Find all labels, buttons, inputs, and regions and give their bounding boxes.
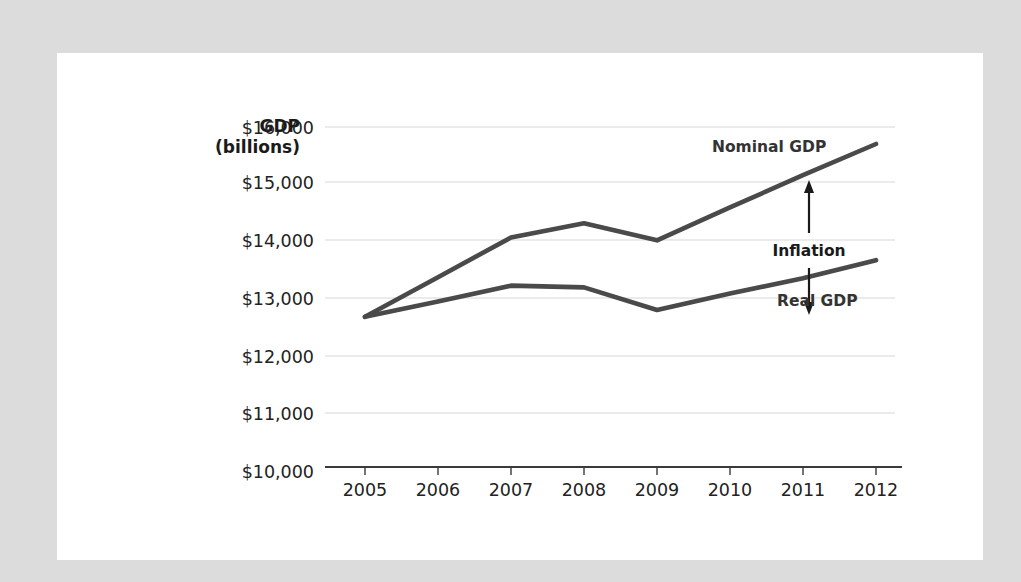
y-tick-label: $10,000 <box>242 462 314 482</box>
y-tick-label: $15,000 <box>242 173 314 193</box>
y-tick-label: $16,000 <box>242 118 314 138</box>
x-tick-label: 2006 <box>416 480 461 500</box>
y-tick-label: $14,000 <box>242 231 314 251</box>
y-tick-label: $11,000 <box>242 404 314 424</box>
x-tick-label: 2007 <box>489 480 534 500</box>
label-real-gdp: Real GDP <box>777 292 858 310</box>
x-tick-label: 2009 <box>635 480 680 500</box>
y-tick-labels: $16,000 $15,000 $14,000 $13,000 $12,000 … <box>242 118 314 482</box>
label-inflation: Inflation <box>772 242 845 260</box>
x-tick-label: 2008 <box>562 480 607 500</box>
x-tick-labels: 2005 2006 2007 2008 2009 2010 2011 2012 <box>343 480 899 500</box>
x-tick-label: 2005 <box>343 480 388 500</box>
x-tick-label: 2012 <box>854 480 899 500</box>
label-nominal-gdp: Nominal GDP <box>712 138 826 156</box>
x-tick-label: 2010 <box>708 480 753 500</box>
y-axis-title-sub: (billions) <box>215 137 300 157</box>
series-line-nominal-gdp <box>365 144 876 317</box>
y-tick-label: $13,000 <box>242 289 314 309</box>
x-tick-marks <box>365 467 876 475</box>
x-tick-label: 2011 <box>781 480 826 500</box>
chart-plot-area: GDP (billions) $16,000 $15,000 $14,000 $… <box>57 53 983 560</box>
y-tick-label: $12,000 <box>242 347 314 367</box>
gdp-line-chart: GDP (billions) $16,000 $15,000 $14,000 $… <box>57 53 983 560</box>
chart-card: GDP (billions) $16,000 $15,000 $14,000 $… <box>57 53 983 560</box>
